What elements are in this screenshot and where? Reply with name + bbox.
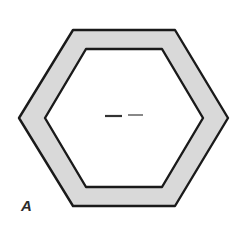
- figure-panel: A: [0, 0, 246, 229]
- panel-label: A: [21, 198, 32, 214]
- hexagon-ring-diagram: [0, 0, 246, 229]
